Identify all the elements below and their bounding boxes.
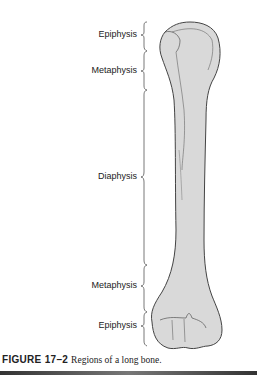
caption-text: Regions of a long bone.: [71, 355, 162, 365]
brace-epiphysis-top: [141, 22, 147, 51]
label-metaphysis-top: Metaphysis: [91, 65, 137, 75]
label-epiphysis-bottom: Epiphysis: [98, 320, 137, 330]
brace-diaphysis: [141, 90, 147, 265]
caption-divider: [0, 371, 257, 375]
bone-outline: [151, 22, 222, 349]
figure-caption: FIGURE 17–2Regions of a long bone.: [2, 354, 162, 365]
brace-epiphysis-bottom: [141, 312, 147, 346]
brace-metaphysis-bottom: [141, 265, 147, 312]
long-bone-figure: Epiphysis Metaphysis Diaphysis Metaphysi…: [0, 0, 257, 377]
brace-metaphysis-top: [141, 51, 147, 90]
region-braces: [141, 22, 147, 346]
figure-number: FIGURE 17–2: [2, 354, 68, 365]
label-epiphysis-top: Epiphysis: [98, 29, 137, 39]
label-diaphysis: Diaphysis: [98, 171, 137, 181]
label-metaphysis-bottom: Metaphysis: [91, 280, 137, 290]
